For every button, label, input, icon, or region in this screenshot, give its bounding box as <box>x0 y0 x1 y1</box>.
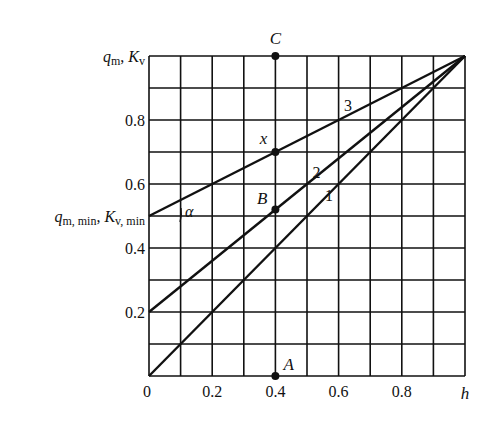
series-label-3: 3 <box>344 97 352 114</box>
point-x <box>271 148 279 156</box>
y-tick-label: 0.8 <box>125 112 145 129</box>
diagram: 00.20.40.60.8h0.20.40.60.8qm, Kvqm, min,… <box>0 0 496 428</box>
x-tick-label: 0.4 <box>265 383 285 400</box>
x-tick-label: 0.6 <box>329 383 349 400</box>
alpha-label: α <box>185 203 194 220</box>
series-label-2: 2 <box>312 164 320 181</box>
point-C <box>271 52 279 60</box>
y-axis-label: qm, Kv <box>103 48 145 68</box>
series-label-1: 1 <box>325 187 333 204</box>
y-min-label: qm, min, Kv, min <box>54 208 145 228</box>
y-tick-label: 0.6 <box>125 176 145 193</box>
point-label-x: x <box>259 129 268 148</box>
x-tick-label: 0.2 <box>202 383 222 400</box>
x-tick-label: 0 <box>143 383 151 400</box>
x-tick-label: 0.8 <box>392 383 412 400</box>
point-B <box>271 206 279 214</box>
y-tick-label: 0.4 <box>125 240 145 257</box>
point-label-C: C <box>270 29 282 48</box>
point-label-B: B <box>257 189 268 208</box>
point-A <box>271 372 279 380</box>
y-tick-label: 0.2 <box>125 304 145 321</box>
x-axis-label: h <box>461 384 470 403</box>
point-label-A: A <box>282 355 294 374</box>
